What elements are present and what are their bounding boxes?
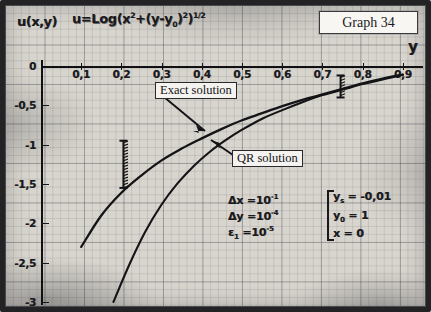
- equation-label: u=Log(x2+(y-y0)2)1/2: [72, 11, 205, 29]
- y-tick: [41, 184, 49, 185]
- x-tick-label: 0,7: [314, 68, 332, 80]
- x-axis-title: y: [408, 38, 418, 56]
- boundary-condition-row: y0 = 1: [333, 209, 391, 228]
- y-tick: [41, 223, 49, 224]
- y-tick-label: -1: [2, 139, 36, 151]
- y-tick-label: -2,5: [2, 257, 36, 269]
- parameters-annotation: Δx =10-1Δy =10-4ε1 =10-5: [228, 191, 278, 245]
- x-tick-label: 0,1: [72, 68, 90, 80]
- x-tick-label: 0,2: [113, 68, 131, 80]
- exact-solution-label: Exact solution: [155, 82, 237, 99]
- y-tick: [41, 263, 49, 264]
- y-tick-label: -0,5: [2, 99, 36, 111]
- y-tick: [41, 302, 49, 303]
- graph-paper-background: [6, 6, 425, 306]
- parameter-row: Δx =10-1: [228, 191, 278, 207]
- graph-title-box: Graph 34: [319, 11, 418, 34]
- y-tick-label: -2: [2, 217, 36, 229]
- y-tick-label: 0: [2, 60, 36, 72]
- y-axis-title: u(x,y): [17, 14, 57, 29]
- x-tick-label: 0,8: [354, 68, 372, 80]
- x-tick-label: 0,6: [273, 68, 291, 80]
- y-tick-label: -1,5: [2, 178, 36, 190]
- boundary-condition-row: x = 0: [333, 227, 391, 241]
- x-tick-label: 0,9: [394, 68, 412, 80]
- graph-figure: 0,10,20,30,40,50,60,70,80,9 0-0,5-1-1,5-…: [0, 0, 431, 312]
- boundary-conditions-annotation: ys = -0,01y0 = 1x = 0: [327, 190, 391, 241]
- y-tick: [41, 105, 49, 106]
- parameter-row: ε1 =10-5: [228, 223, 278, 244]
- qr-solution-label: QR solution: [232, 150, 303, 167]
- boundary-condition-row: ys = -0,01: [333, 190, 391, 209]
- x-tick-label: 0,5: [233, 68, 251, 80]
- y-axis-line: [41, 60, 43, 305]
- y-tick: [41, 145, 49, 146]
- x-tick-label: 0,4: [193, 68, 211, 80]
- parameter-row: Δy =10-4: [228, 207, 278, 223]
- y-tick-label: -3: [2, 296, 36, 308]
- x-tick-label: 0,3: [153, 68, 171, 80]
